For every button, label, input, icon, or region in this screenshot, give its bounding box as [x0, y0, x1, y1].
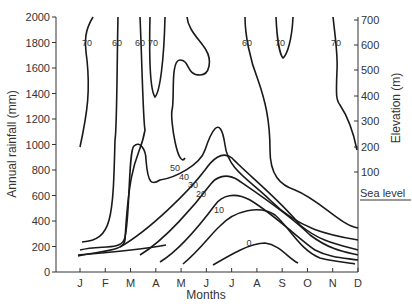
x-axis-ticks: JFMAMJJASOND — [77, 268, 362, 289]
svg-text:70: 70 — [331, 38, 341, 48]
contour-lines — [78, 17, 358, 265]
y2-tick-label: 500 — [361, 64, 379, 76]
y-tick-label: 1000 — [26, 139, 50, 151]
y2-tick-label: 600 — [361, 39, 379, 51]
y2-tick-label: 200 — [361, 141, 379, 153]
y-tick-label: 800 — [32, 164, 50, 176]
y2-tick-label: 100 — [361, 166, 379, 178]
y-tick-label: 400 — [32, 215, 50, 227]
y-axis-label: Annual rainfall (mm) — [5, 90, 19, 197]
y-tick-label: 1200 — [26, 113, 50, 125]
y2-tick-label: 400 — [361, 90, 379, 102]
y-tick-label: 1600 — [26, 62, 50, 74]
x-tick-label: N — [329, 277, 337, 289]
y2-axis-label: Elevation (m) — [389, 73, 403, 144]
y-tick-label: 200 — [32, 241, 50, 253]
x-axis-label: Months — [186, 288, 225, 302]
sea-level-label: Sea level — [360, 187, 405, 199]
y-axis-ticks: 0200400600800100012001400160018002000 — [26, 11, 56, 278]
x-tick-label: M — [126, 277, 135, 289]
x-tick-label: D — [354, 277, 362, 289]
svg-text:60: 60 — [112, 38, 122, 48]
y-tick-label: 2000 — [26, 11, 50, 23]
y2-tick-label: 300 — [361, 115, 379, 127]
svg-text:60: 60 — [242, 38, 252, 48]
x-tick-label: M — [177, 277, 186, 289]
contour-chart: 0200400600800100012001400160018002000 70… — [0, 0, 412, 306]
y-tick-label: 0 — [44, 266, 50, 278]
svg-text:60: 60 — [135, 38, 145, 48]
y-tick-label: 1800 — [26, 37, 50, 49]
svg-text:70: 70 — [148, 38, 158, 48]
y-tick-label: 600 — [32, 190, 50, 202]
x-tick-label: S — [279, 277, 286, 289]
x-tick-label: O — [303, 277, 312, 289]
x-tick-label: J — [77, 277, 83, 289]
x-tick-label: A — [152, 277, 160, 289]
svg-text:0: 0 — [246, 238, 251, 248]
svg-text:70: 70 — [275, 38, 285, 48]
svg-text:70: 70 — [82, 38, 92, 48]
svg-text:20: 20 — [196, 189, 206, 199]
y2-tick-label: 700 — [361, 14, 379, 26]
y-tick-label: 1400 — [26, 88, 50, 100]
contour-labels: 70 60 60 70 60 70 70 50 40 30 20 10 0 — [82, 38, 341, 248]
x-tick-label: F — [102, 277, 109, 289]
x-tick-label: A — [253, 277, 261, 289]
x-tick-label: J — [229, 277, 235, 289]
svg-text:10: 10 — [214, 205, 224, 215]
